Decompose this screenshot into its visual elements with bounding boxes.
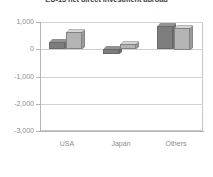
- bar-front-face: [49, 42, 65, 49]
- bar-usa-series-2: [66, 32, 82, 49]
- x-axis-label-usa: USA: [40, 139, 94, 148]
- chart-title: EU-15 net direct investment abroad: [0, 0, 213, 5]
- y-axis-label: 0: [0, 45, 34, 53]
- x-axis-line: [40, 131, 204, 132]
- y-axis-label: -3,000: [0, 127, 34, 135]
- bar-others-series-1: [157, 26, 173, 49]
- bar-front-face: [120, 44, 136, 49]
- bar-usa-series-1: [49, 42, 65, 49]
- bar-japan-series-1: [103, 49, 119, 54]
- bar-front-face: [103, 49, 119, 54]
- x-axis-label-others: Others: [149, 139, 203, 148]
- gridline: [40, 77, 203, 78]
- bar-side-face: [82, 30, 85, 50]
- y-axis-label: 1,000: [0, 18, 34, 26]
- y-axis-tick: [36, 77, 41, 78]
- bar-side-face: [190, 26, 193, 51]
- chart-container: EU-15 net direct investment abroad 1,000…: [0, 0, 213, 177]
- y-axis-tick: [36, 104, 41, 105]
- bar-front-face: [66, 32, 82, 49]
- bar-japan-series-2: [120, 44, 136, 49]
- y-axis-label: -1,000: [0, 73, 34, 81]
- x-axis-label-japan: Japan: [94, 139, 148, 148]
- bar-others-series-2: [174, 28, 190, 50]
- y-axis-label: -2,000: [0, 100, 34, 108]
- bar-front-face: [174, 28, 190, 50]
- gridline: [40, 104, 203, 105]
- gridline: [40, 22, 203, 23]
- y-axis-tick: [36, 22, 41, 23]
- bar-front-face: [157, 26, 173, 49]
- y-axis-tick: [36, 49, 41, 50]
